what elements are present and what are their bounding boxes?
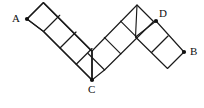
left-arm-band [27,3,92,81]
vertex-label-A: A [12,13,20,24]
left-arm-rung-1 [44,15,60,31]
left-arm-group [27,3,92,81]
vertex-dot-D [154,19,158,23]
right-arm-rung-1 [152,36,169,53]
vertex-dot-B [182,50,186,54]
squares-chain-diagram [0,0,204,108]
left-arm-rung-3 [76,49,92,65]
figure-canvas: A C D B [0,0,204,108]
vertex-dot-C [90,78,94,82]
left-arm-rung-2 [60,32,76,48]
vertex-label-D: D [159,8,167,19]
right-arm-edge-to-apex [136,5,138,37]
vertex-dot-A [25,17,29,21]
middle-arm-rung-3 [121,21,138,37]
vertex-label-B: B [190,46,197,57]
middle-arm-rung-2 [104,37,121,54]
middle-arm-band [92,5,154,80]
middle-arm-group [88,5,154,80]
vertex-label-C: C [88,84,95,95]
middle-arm-rung-1 [88,54,105,71]
